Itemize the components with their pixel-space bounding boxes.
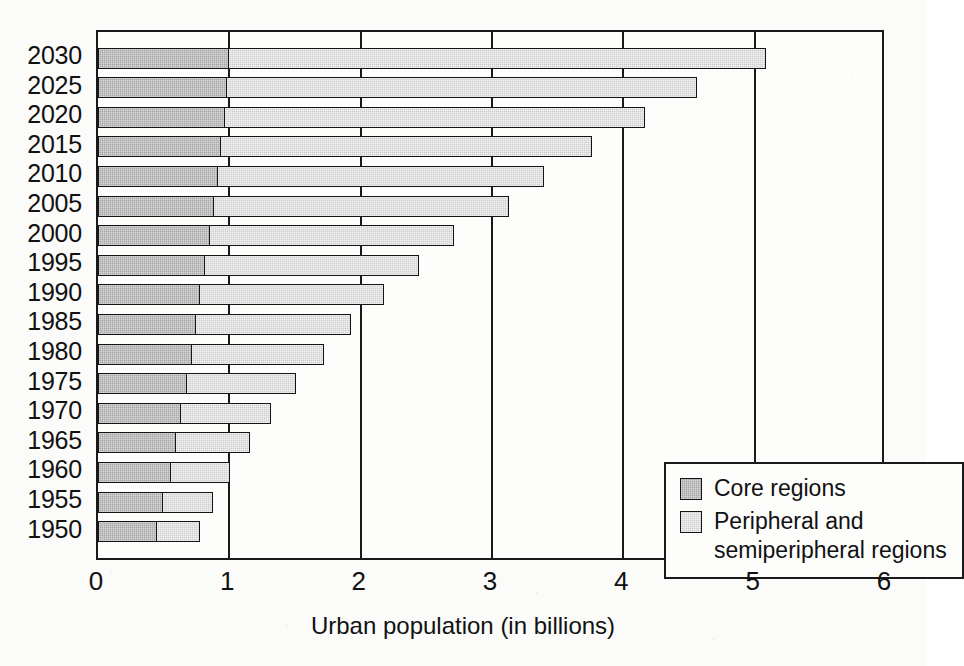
bar-segment-core-1980 bbox=[98, 344, 193, 365]
y-tick-2015: 2015 bbox=[27, 130, 82, 159]
bar-segment-peripheral-2020 bbox=[224, 107, 646, 128]
y-tick-1985: 1985 bbox=[27, 307, 82, 336]
x-axis-tick-labels: 0123456 bbox=[96, 566, 884, 600]
y-tick-2030: 2030 bbox=[27, 41, 82, 70]
bar-row bbox=[98, 373, 296, 394]
bar-segment-core-2010 bbox=[98, 166, 219, 187]
legend-label-core: Core regions bbox=[714, 474, 846, 503]
bar-segment-core-1970 bbox=[98, 403, 182, 424]
y-tick-2000: 2000 bbox=[27, 219, 82, 248]
core-swatch-icon bbox=[680, 478, 702, 500]
bar-segment-core-2020 bbox=[98, 107, 225, 128]
bar-segment-peripheral-2000 bbox=[209, 225, 453, 246]
bar-row bbox=[98, 403, 271, 424]
bar-row bbox=[98, 225, 454, 246]
bar-segment-core-1990 bbox=[98, 284, 200, 305]
bar-segment-core-1950 bbox=[98, 521, 157, 542]
bar-segment-peripheral-1955 bbox=[162, 492, 213, 513]
bar-row bbox=[98, 314, 351, 335]
bar-segment-peripheral-1985 bbox=[195, 314, 351, 335]
bar-row bbox=[98, 462, 230, 483]
bar-segment-peripheral-2030 bbox=[228, 48, 766, 69]
bar-row bbox=[98, 432, 250, 453]
legend-label-peripheral: Peripheral andsemiperipheral regions bbox=[714, 507, 947, 565]
bar-row bbox=[98, 492, 213, 513]
bar-segment-peripheral-1970 bbox=[180, 403, 271, 424]
y-tick-2010: 2010 bbox=[27, 159, 82, 188]
bar-segment-peripheral-2010 bbox=[217, 166, 544, 187]
y-tick-2025: 2025 bbox=[27, 71, 82, 100]
legend-item-peripheral: Peripheral andsemiperipheral regions bbox=[680, 507, 950, 565]
bar-segment-core-2005 bbox=[98, 196, 215, 217]
x-tick-6: 6 bbox=[877, 566, 891, 597]
x-tick-2: 2 bbox=[351, 566, 365, 597]
y-tick-2005: 2005 bbox=[27, 189, 82, 218]
legend-item-core: Core regions bbox=[680, 474, 950, 503]
bar-row bbox=[98, 255, 419, 276]
x-tick-3: 3 bbox=[483, 566, 497, 597]
x-tick-5: 5 bbox=[745, 566, 759, 597]
y-tick-1975: 1975 bbox=[27, 367, 82, 396]
x-tick-4: 4 bbox=[614, 566, 628, 597]
y-tick-1960: 1960 bbox=[27, 455, 82, 484]
bar-segment-peripheral-1950 bbox=[156, 521, 201, 542]
bar-segment-core-1960 bbox=[98, 462, 172, 483]
bar-row bbox=[98, 48, 766, 69]
bar-segment-core-2015 bbox=[98, 136, 221, 157]
bar-segment-peripheral-1980 bbox=[191, 344, 324, 365]
x-tick-1: 1 bbox=[220, 566, 234, 597]
y-tick-1980: 1980 bbox=[27, 337, 82, 366]
plot-area: Core regions Peripheral andsemiperiphera… bbox=[96, 30, 884, 560]
bar-segment-core-1955 bbox=[98, 492, 164, 513]
bar-segment-peripheral-1965 bbox=[175, 432, 250, 453]
bar-segment-peripheral-1990 bbox=[199, 284, 384, 305]
bar-row bbox=[98, 107, 645, 128]
bar-row bbox=[98, 284, 384, 305]
bar-row bbox=[98, 166, 544, 187]
y-tick-1995: 1995 bbox=[27, 248, 82, 277]
chart-legend: Core regions Peripheral andsemiperiphera… bbox=[664, 462, 964, 579]
y-tick-1950: 1950 bbox=[27, 515, 82, 544]
bar-segment-core-2025 bbox=[98, 77, 228, 98]
bar-segment-peripheral-1960 bbox=[170, 462, 230, 483]
y-tick-2020: 2020 bbox=[27, 100, 82, 129]
bar-segment-core-1995 bbox=[98, 255, 206, 276]
y-tick-1955: 1955 bbox=[27, 485, 82, 514]
bar-segment-core-1965 bbox=[98, 432, 177, 453]
y-tick-1970: 1970 bbox=[27, 396, 82, 425]
y-tick-1965: 1965 bbox=[27, 426, 82, 455]
bar-segment-core-2000 bbox=[98, 225, 211, 246]
y-tick-1990: 1990 bbox=[27, 278, 82, 307]
bar-row bbox=[98, 344, 324, 365]
bar-row bbox=[98, 136, 592, 157]
bar-segment-core-1985 bbox=[98, 314, 197, 335]
bar-segment-peripheral-1975 bbox=[186, 373, 296, 394]
bar-segment-peripheral-2005 bbox=[213, 196, 509, 217]
bar-segment-peripheral-2025 bbox=[226, 77, 696, 98]
x-tick-0: 0 bbox=[89, 566, 103, 597]
bar-segment-peripheral-2015 bbox=[220, 136, 592, 157]
bar-segment-core-1975 bbox=[98, 373, 187, 394]
peripheral-swatch-icon bbox=[680, 511, 702, 533]
bar-row bbox=[98, 521, 200, 542]
bar-segment-core-2030 bbox=[98, 48, 229, 69]
bar-row bbox=[98, 196, 509, 217]
x-axis-label: Urban population (in billions) bbox=[0, 612, 926, 640]
bar-row bbox=[98, 77, 697, 98]
bar-segment-peripheral-1995 bbox=[204, 255, 419, 276]
